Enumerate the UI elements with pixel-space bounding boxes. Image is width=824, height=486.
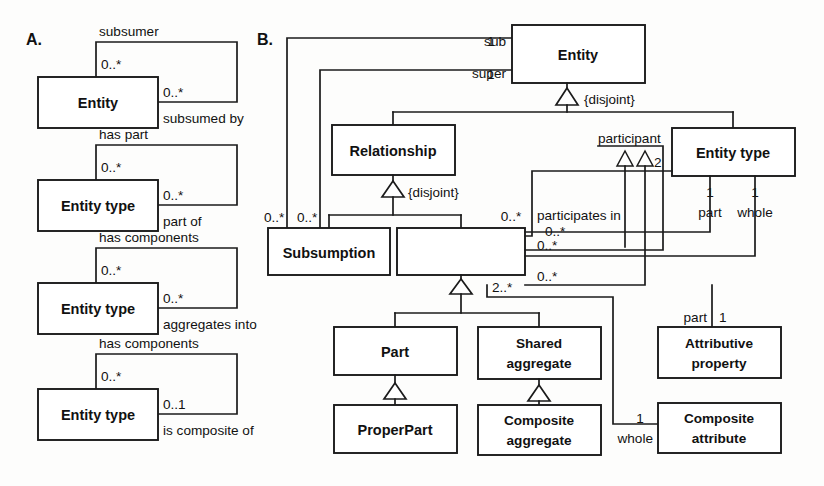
role-label-subsumed-by: subsumed by — [163, 111, 244, 126]
multiplicity-part-of: 0..* — [163, 188, 184, 203]
class-box-partwhole[interactable] — [397, 228, 525, 275]
role-label-participant: participant — [598, 131, 661, 146]
panel-a-group-has-part: Entity type has part 0..* 0..* part of — [38, 127, 237, 231]
multiplicity-subsumed-by: 0..* — [163, 85, 184, 100]
panel-b-letter: B. — [257, 31, 273, 48]
class-label-attributive-property-line1: Attributive — [685, 336, 753, 351]
panel-a-group-aggregation: Entity type has components 0..* 0..* agg… — [38, 230, 257, 334]
class-label-shared-aggregate-line1: Shared — [516, 336, 562, 351]
multiplicity-partwhole-participates: 0..* — [501, 209, 522, 224]
class-label-composite-aggregate-line2: aggregate — [507, 433, 572, 448]
uml-diagram-figure: A. Entity subsumer 0..* 0..* subsumed by… — [0, 0, 824, 486]
class-label-entity: Entity — [78, 95, 118, 111]
role-label-part-of: part of — [163, 214, 202, 229]
multiplicity-participant: 2 — [654, 155, 662, 170]
panel-a-group-subsumption: Entity subsumer 0..* 0..* subsumed by — [38, 24, 244, 128]
class-label-attributive-property-line2: property — [691, 356, 747, 371]
multiplicity-partwhole-bottom: 2..* — [492, 280, 513, 295]
role-label-has-components: has components — [99, 230, 199, 245]
panel-a-letter: A. — [26, 31, 42, 48]
class-label-entity-type: Entity type — [696, 145, 770, 161]
participant-arrow-icon — [617, 151, 633, 166]
multiplicity-has-components: 0..* — [101, 263, 122, 278]
class-label-part: Part — [381, 344, 409, 360]
role-label-subsumer: subsumer — [99, 24, 159, 39]
class-label-composite-attribute-line1: Composite — [684, 411, 755, 426]
class-label-shared-aggregate-line2: aggregate — [507, 356, 572, 371]
diagram-canvas: A. Entity subsumer 0..* 0..* subsumed by… — [0, 0, 824, 486]
participant-branch-line-2 — [525, 166, 645, 285]
multiplicity-sub: 1 — [487, 34, 495, 49]
role-label-part-attributive: part — [684, 310, 708, 325]
multiplicity-partwhole-right-c: 0..* — [537, 269, 558, 284]
multiplicity-super: 1 — [487, 67, 495, 82]
multiplicity-partwhole-right-b: 0..* — [537, 238, 558, 253]
multiplicity-subsumption-outer: 0..* — [264, 210, 285, 225]
class-box-shared-aggregate[interactable] — [478, 327, 601, 379]
class-label-subsumption: Subsumption — [283, 245, 376, 261]
participant-arrow-icon — [637, 151, 653, 166]
generalization-triangle-part — [384, 383, 406, 399]
role-label-aggregates-into: aggregates into — [163, 317, 257, 332]
constraint-disjoint-entity: {disjoint} — [584, 92, 635, 107]
role-label-whole-composite: whole — [616, 431, 653, 446]
panel-a-group-composition: Entity type has components 0..* 0..1 is … — [38, 336, 254, 440]
multiplicity-subsumer: 0..* — [101, 57, 122, 72]
role-label-has-part: has part — [99, 127, 148, 142]
class-label-entity-type: Entity type — [61, 407, 135, 423]
role-label-is-composite-of: is composite of — [163, 423, 254, 438]
generalization-triangle-relationship — [382, 181, 404, 197]
constraint-disjoint-relationship: {disjoint} — [408, 185, 459, 200]
multiplicity-is-composite-of: 0..1 — [163, 397, 186, 412]
multiplicity-composite-whole: 1 — [636, 411, 644, 426]
class-label-properpart: ProperPart — [358, 422, 433, 438]
multiplicity-attributive-part: 1 — [719, 310, 727, 325]
class-label-entity-type: Entity type — [61, 301, 135, 317]
generalization-triangle-shared-aggregate — [528, 385, 550, 401]
class-label-composite-aggregate-line1: Composite — [504, 413, 575, 428]
multiplicity-subsumption-inner: 0..* — [297, 210, 318, 225]
role-label-participates-in: participates in — [537, 208, 621, 223]
multiplicity-has-part: 0..* — [101, 160, 122, 175]
multiplicity-aggregates-into: 0..* — [163, 291, 184, 306]
class-label-entity: Entity — [558, 47, 598, 63]
class-label-entity-type: Entity type — [61, 198, 135, 214]
class-label-relationship: Relationship — [349, 143, 436, 159]
generalization-triangle-partwhole — [450, 279, 472, 294]
generalization-triangle-entity — [556, 88, 578, 105]
class-label-composite-attribute-line2: attribute — [692, 431, 747, 446]
multiplicity-has-components: 0..* — [101, 369, 122, 384]
role-label-has-components: has components — [99, 336, 199, 351]
